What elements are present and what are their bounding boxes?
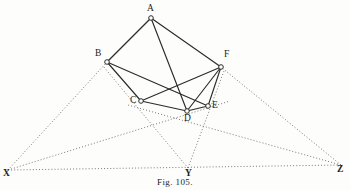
vertex-label-z: Z	[337, 165, 343, 175]
vertex-marker-group	[105, 16, 224, 114]
dotted-Z-C	[128, 105, 341, 165]
figure-caption: Fig. 105.	[0, 177, 350, 187]
geometric-figure: ABFCEDXYZ Fig. 105.	[0, 0, 350, 190]
vertex-label-d: D	[184, 114, 191, 124]
vertex-label-e: E	[212, 101, 218, 111]
edge-A-F	[151, 18, 221, 67]
edge-A-B	[107, 18, 151, 62]
solid-edge-group	[107, 18, 221, 111]
edge-B-E	[107, 62, 208, 106]
vertex-marker-f	[219, 65, 224, 70]
dotted-Z-F	[221, 67, 341, 165]
vertex-label-c: C	[130, 96, 136, 106]
figure-canvas	[0, 0, 350, 190]
dotted-X-Z	[8, 165, 341, 170]
vertex-marker-b	[105, 60, 110, 65]
dotted-X-E	[8, 101, 230, 170]
vertex-label-a: A	[147, 4, 154, 14]
edge-C-D	[141, 101, 187, 111]
dotted-X-B	[8, 62, 107, 170]
vertex-marker-e	[206, 104, 211, 109]
vertex-label-f: F	[224, 50, 229, 60]
vertex-marker-c	[139, 99, 144, 104]
edge-A-D	[151, 18, 187, 111]
vertex-marker-a	[149, 16, 154, 21]
vertex-label-b: B	[95, 49, 101, 59]
